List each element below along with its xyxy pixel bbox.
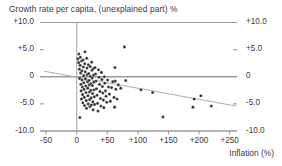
x-axis-tick-label-1: 0 (60, 136, 94, 145)
x-axis-tick-label-0: -50 (29, 136, 63, 145)
data-point (110, 86, 113, 89)
data-point (98, 83, 101, 86)
data-point (84, 70, 87, 73)
data-point (112, 96, 115, 99)
y-axis-tick-label-right-3: -5.0 (246, 98, 260, 107)
data-point (123, 45, 126, 48)
data-point (104, 89, 107, 92)
data-point (77, 61, 80, 64)
data-point (80, 97, 83, 100)
data-point (95, 87, 98, 90)
x-axis-tick-label-6: +250 (213, 136, 247, 145)
data-point (94, 80, 97, 83)
data-point (90, 61, 93, 64)
data-point (83, 50, 86, 53)
data-point (191, 106, 194, 109)
data-point (86, 87, 89, 90)
data-point (106, 78, 109, 81)
x-axis-tick-label-2: +50 (90, 136, 124, 145)
data-point (87, 72, 90, 75)
data-point (84, 91, 87, 94)
y-axis-tick-label-right-1: +5.0 (246, 44, 262, 53)
data-point (119, 87, 122, 90)
data-point (103, 75, 106, 78)
data-point (82, 74, 85, 77)
data-point (85, 67, 88, 70)
data-point (151, 91, 154, 94)
data-point (79, 83, 82, 86)
data-point (80, 89, 83, 92)
data-point (85, 57, 88, 60)
data-point (113, 66, 116, 69)
data-point (89, 89, 92, 92)
data-point (87, 102, 90, 105)
x-axis-tick-label-5: +200 (182, 136, 216, 145)
data-point (105, 101, 108, 104)
data-point (97, 68, 100, 71)
data-point (81, 101, 84, 104)
data-point (83, 62, 86, 65)
x-axis-title: Inflation (%) (229, 148, 274, 158)
data-point (101, 91, 104, 94)
data-point (108, 93, 111, 96)
x-axis-tick-label-3: +100 (121, 136, 155, 145)
data-point (109, 100, 112, 103)
data-point (83, 96, 86, 99)
data-point (82, 65, 85, 68)
scatter-series-0 (76, 45, 212, 119)
data-point (93, 95, 96, 98)
data-point (97, 76, 100, 79)
data-point (84, 77, 87, 80)
data-point (83, 104, 86, 107)
data-point (86, 94, 89, 97)
y-axis-tick-label-left-1: +5.0 (0, 44, 34, 53)
data-point (102, 99, 105, 102)
data-point (199, 94, 202, 97)
data-point (93, 103, 96, 106)
y-axis-tick-label-left-3: -5.0 (0, 98, 34, 107)
data-point (85, 107, 88, 110)
data-point (90, 96, 93, 99)
data-point (116, 97, 119, 100)
data-point (78, 116, 81, 119)
y-axis-tick-label-right-2: 0 (246, 71, 251, 80)
data-point (103, 82, 106, 85)
data-point (80, 69, 83, 72)
data-point (96, 109, 99, 112)
data-point (94, 66, 97, 69)
data-point (139, 88, 142, 91)
data-point (98, 90, 101, 93)
data-point (79, 56, 82, 59)
data-point (102, 106, 105, 109)
data-point (85, 99, 88, 102)
data-point (92, 108, 95, 111)
data-point (100, 71, 103, 74)
data-point (94, 72, 97, 75)
data-point (117, 83, 120, 86)
y-axis-tick-label-left-2: 0 (0, 71, 34, 80)
data-point (124, 79, 127, 82)
data-point (100, 78, 103, 81)
data-point (96, 102, 99, 105)
y-axis-tick-label-right-4: -10.0 (246, 126, 265, 135)
data-point (79, 64, 82, 67)
data-point (114, 80, 117, 83)
data-point (89, 65, 92, 68)
data-point (91, 100, 94, 103)
data-point (95, 94, 98, 97)
data-point (105, 95, 108, 98)
data-point (91, 92, 94, 95)
data-point (99, 105, 102, 108)
data-point (77, 52, 80, 55)
data-point (161, 115, 164, 118)
y-axis-tick-label-right-0: +10.0 (246, 17, 267, 26)
data-point (114, 88, 117, 91)
data-point (91, 84, 94, 87)
data-point (82, 81, 85, 84)
data-point (193, 97, 196, 100)
chart-figure: Growth rate per capita, (unexplained par… (0, 0, 282, 166)
data-point (83, 88, 86, 91)
x-axis-tick-label-4: +150 (151, 136, 185, 145)
data-point (113, 106, 116, 109)
data-point (87, 79, 90, 82)
